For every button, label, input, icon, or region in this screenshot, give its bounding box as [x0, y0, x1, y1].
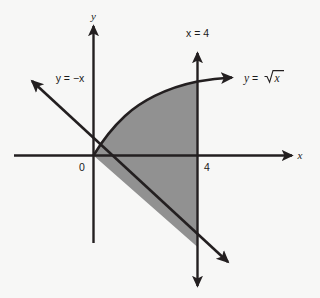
sqrt-label-lhs: y [243, 72, 250, 85]
sqrt-label-radicand: x [274, 72, 281, 84]
x-tick-label-4: 4 [204, 161, 210, 173]
coordinate-plane-svg: x y 0 4 x = 4 y = −x y = x [0, 0, 320, 298]
label-y-equals-sqrt-x: y = x [243, 71, 284, 85]
x-axis-label: x [297, 149, 303, 161]
shaded-region [94, 82, 198, 248]
y-axis-label: y [90, 10, 96, 22]
label-x-equals-4: x = 4 [186, 27, 209, 39]
origin-label: 0 [79, 161, 85, 173]
label-y-equals-negative-x: y = −x [56, 72, 85, 84]
sqrt-label-equals: = [252, 72, 258, 84]
math-figure: x y 0 4 x = 4 y = −x y = x [0, 0, 320, 298]
